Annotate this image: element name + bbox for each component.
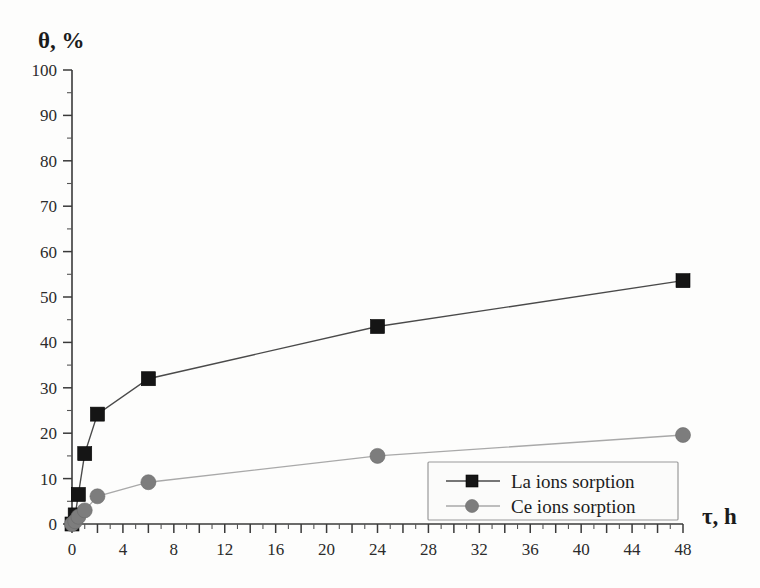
y-tick-label: 0 (49, 515, 58, 534)
x-tick-label: 48 (675, 540, 692, 559)
y-tick-label: 70 (40, 197, 57, 216)
x-tick-label: 36 (522, 540, 539, 559)
legend-label-ce: Ce ions sorption (511, 496, 636, 517)
y-tick-label: 40 (40, 333, 57, 352)
legend-circle-marker-icon (466, 500, 479, 513)
data-point-marker (90, 407, 104, 421)
y-axis-tick-labels: 0102030405060708090100 (32, 61, 58, 534)
data-point-marker (371, 320, 385, 334)
legend-square-marker-icon (466, 475, 478, 487)
x-tick-label: 28 (420, 540, 437, 559)
data-point-marker (71, 487, 85, 501)
data-point-marker (676, 428, 691, 443)
x-tick-label: 12 (216, 540, 233, 559)
data-point-marker (141, 372, 155, 386)
y-tick-label: 80 (40, 152, 57, 171)
y-tick-label: 50 (40, 288, 57, 307)
chart-legend[interactable]: La ions sorption Ce ions sorption (428, 462, 678, 520)
y-axis-title: θ, % (38, 28, 85, 53)
y-tick-label: 20 (40, 424, 57, 443)
x-tick-label: 44 (624, 540, 642, 559)
y-tick-label: 10 (40, 470, 57, 489)
data-point-marker (676, 274, 690, 288)
x-tick-label: 4 (119, 540, 128, 559)
x-axis-title: τ, h (702, 504, 737, 529)
y-tick-label: 100 (32, 61, 58, 80)
data-point-marker (77, 503, 92, 518)
y-tick-label: 60 (40, 243, 57, 262)
x-tick-label: 32 (471, 540, 488, 559)
data-point-marker (78, 447, 92, 461)
data-point-marker (90, 489, 105, 504)
x-tick-label: 20 (318, 540, 335, 559)
x-tick-label: 16 (267, 540, 284, 559)
chart-plot-area: θ, % τ, h 0102030405060708090100 0481216… (0, 0, 760, 588)
x-axis-ticks (72, 524, 683, 533)
x-tick-label: 40 (573, 540, 590, 559)
x-axis-tick-labels: 04812162024283236404448 (68, 540, 692, 559)
data-point-marker (141, 475, 156, 490)
y-tick-label: 90 (40, 106, 57, 125)
x-tick-label: 8 (170, 540, 179, 559)
data-point-marker (370, 448, 385, 463)
x-tick-label: 0 (68, 540, 77, 559)
y-axis-ticks (63, 70, 72, 524)
chart-figure: θ, % τ, h 0102030405060708090100 0481216… (0, 0, 760, 588)
legend-label-la: La ions sorption (511, 471, 635, 492)
x-tick-label: 24 (369, 540, 387, 559)
y-tick-label: 30 (40, 379, 57, 398)
